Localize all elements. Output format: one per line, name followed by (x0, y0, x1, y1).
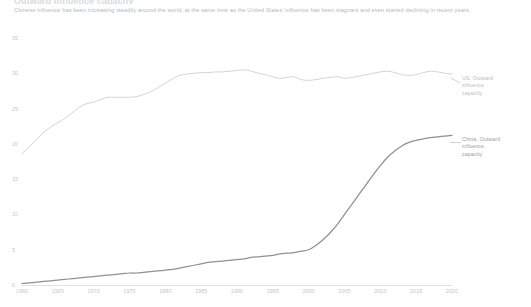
legend-label-china-line3: capacity (462, 151, 500, 158)
y-tick-label: 5 (12, 247, 28, 253)
x-tick-label: 1975 (123, 288, 135, 294)
legend-label-china: China, Outward influence capacity (462, 136, 500, 158)
y-tick-label: 15 (12, 176, 28, 182)
x-tick-label: 1960 (16, 288, 28, 294)
y-tick-label: 10 (12, 211, 28, 217)
y-tick-label: 30 (12, 70, 28, 76)
y-tick-label: 35 (12, 35, 28, 41)
chart-page: Outward influence capacity Chinese influ… (0, 0, 531, 307)
china-series-leader-line (450, 142, 461, 143)
china-series-line (22, 135, 452, 283)
legend-label-us: US, Outward influence capacity (462, 75, 493, 97)
x-tick-label: 1995 (267, 288, 279, 294)
x-tick-label: 2010 (374, 288, 386, 294)
x-axis-line (22, 285, 452, 286)
x-tick-label: 1990 (231, 288, 243, 294)
us-series-line (22, 70, 452, 154)
x-tick-label: 2005 (338, 288, 350, 294)
x-tick-label: 1985 (195, 288, 207, 294)
chart-plot-area (0, 0, 531, 307)
x-tick-label: 1970 (87, 288, 99, 294)
x-tick-label: 2015 (410, 288, 422, 294)
y-tick-label: 20 (12, 141, 28, 147)
x-tick-label: 2020 (446, 288, 458, 294)
x-tick-label: 2000 (302, 288, 314, 294)
x-tick-label: 1965 (52, 288, 64, 294)
legend-label-us-line1: US, Outward (462, 75, 493, 82)
legend-label-us-line2: influence (462, 82, 493, 89)
legend-label-us-line3: capacity (462, 90, 493, 97)
legend-label-china-line2: influence (462, 143, 500, 150)
line-chart-svg (0, 0, 531, 307)
legend-label-china-line1: China, Outward (462, 136, 500, 143)
x-tick-label: 1980 (159, 288, 171, 294)
y-tick-label: 25 (12, 106, 28, 112)
